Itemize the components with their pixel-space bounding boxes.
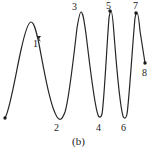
point-markers <box>3 9 146 119</box>
point-label-3: 3 <box>72 2 77 12</box>
point-label-6: 6 <box>121 123 126 133</box>
figure-container: 12345678 (b) <box>0 0 159 152</box>
data-point-marker <box>134 11 137 14</box>
waveform-curve <box>5 11 145 119</box>
point-label-1: 1 <box>33 39 38 49</box>
point-label-7: 7 <box>133 1 138 11</box>
point-label-5: 5 <box>106 1 111 11</box>
point-label-4: 4 <box>96 123 101 133</box>
figure-caption: (b) <box>72 136 85 147</box>
data-point-marker <box>3 116 6 119</box>
data-point-marker <box>143 61 146 64</box>
waveform-plot <box>0 0 159 152</box>
point-label-8: 8 <box>142 68 147 78</box>
point-label-2: 2 <box>54 123 59 133</box>
